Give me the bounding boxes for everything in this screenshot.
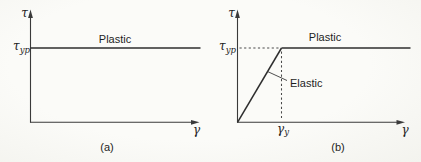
a-y-axis-arrowhead <box>28 10 33 19</box>
b-elastic-label: Elastic <box>290 77 323 89</box>
a-yield-stress-label: τyp <box>13 39 30 55</box>
b-yield-strain-subscript: y <box>283 127 289 137</box>
b-elastic-line <box>238 48 282 122</box>
stress-strain-figure: τ γ τyp Plastic (a) τ γ τyp γy <box>0 0 421 162</box>
b-y-axis-label: τ <box>228 6 235 20</box>
b-elastic-leader-line <box>268 72 288 81</box>
b-yield-strain-label: γy <box>277 122 289 138</box>
b-y-axis-arrowhead <box>235 10 240 19</box>
b-yield-stress-subscript: yp <box>225 45 237 55</box>
a-y-axis-label: τ <box>21 6 28 20</box>
a-yield-stress-subscript: yp <box>19 45 31 55</box>
a-caption: (a) <box>100 141 113 153</box>
b-yield-stress-label: τyp <box>219 39 236 55</box>
b-plastic-label: Plastic <box>309 31 342 43</box>
a-plastic-label: Plastic <box>99 33 132 45</box>
panel-b: τ γ τyp γy Plastic Elastic (b) <box>219 6 411 153</box>
a-x-axis-label: γ <box>193 123 201 137</box>
panel-a: τ γ τyp Plastic (a) <box>13 6 201 153</box>
b-x-axis-label: γ <box>401 123 409 137</box>
b-caption: (b) <box>331 141 344 153</box>
figure-canvas: τ γ τyp Plastic (a) τ γ τyp γy <box>0 0 421 162</box>
